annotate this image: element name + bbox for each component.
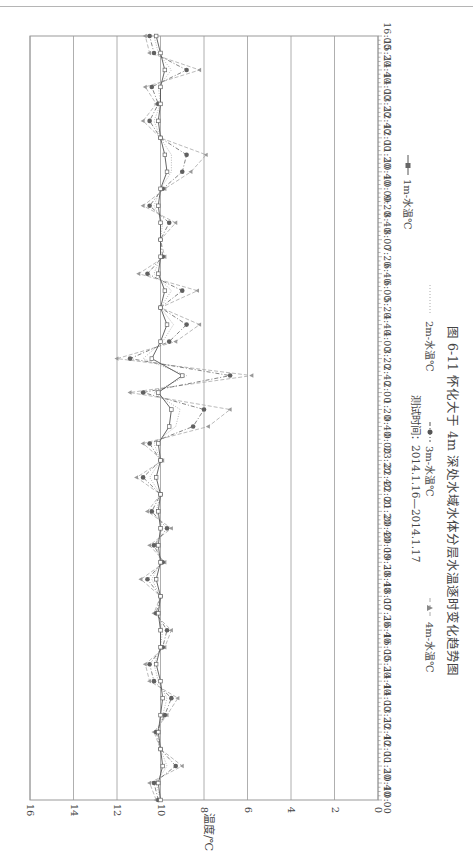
y-tick-label: 10 [156, 804, 167, 817]
series-lines [115, 34, 254, 803]
time-axis-ticks: 10:0010:4011:2012:0012:4013:2014:0014:40… [378, 22, 393, 813]
legend-label: 3m-水温℃ [424, 446, 435, 496]
y-tick-label: 12 [112, 804, 123, 817]
y-axis-title: 温度/℃ [202, 813, 216, 851]
plot-area [30, 36, 378, 800]
legend-label: 1m-水温℃ [402, 179, 413, 229]
x-tick-label: 16:00 [382, 22, 393, 49]
series-line [152, 36, 183, 800]
legend-item-1m: 1m-水温℃ [402, 155, 413, 229]
y-tick-label: 14 [69, 804, 80, 817]
chart-subtitle: 测试时间：2014.1.16—2014.1.17 [410, 395, 422, 562]
y-tick-label: 2 [330, 807, 341, 813]
legend-item-2m: 2m-水温℃ [424, 285, 435, 371]
y-tick-label: 6 [243, 807, 254, 813]
series-line [130, 36, 230, 800]
legend-item-4m: 4m-水温℃ [424, 598, 435, 672]
circle-marker-icon [428, 430, 433, 435]
y-tick-label: 4 [286, 807, 297, 813]
legend-item-3m: 3m-水温℃ [424, 422, 435, 496]
rotated-chart-figure: 0246810121416 10:0010:4011:2012:0012:401… [0, 0, 473, 859]
y-tick-label: 16 [25, 804, 36, 817]
square-marker-icon [406, 163, 411, 168]
series-line [117, 36, 252, 800]
legend-label: 2m-水温℃ [424, 321, 435, 371]
figure-caption: 图 6-11 怀化大于 4m 深处水域水体分层水温逐时变化趋势图 [445, 326, 460, 676]
series-line [143, 36, 187, 800]
legend-label: 4m-水温℃ [424, 622, 435, 672]
